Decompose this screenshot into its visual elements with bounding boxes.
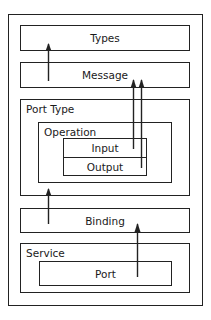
port-label: Port xyxy=(40,269,171,280)
message-label: Message xyxy=(21,70,189,81)
message-block: Message xyxy=(20,62,190,88)
port-type-label: Port Type xyxy=(26,104,74,115)
output-block: Output xyxy=(63,157,147,177)
binding-label: Binding xyxy=(21,216,189,227)
binding-block: Binding xyxy=(20,208,190,233)
port-block: Port xyxy=(39,261,172,286)
operation-label: Operation xyxy=(44,127,96,138)
input-block: Input xyxy=(63,138,147,158)
types-block: Types xyxy=(20,25,190,51)
output-label: Output xyxy=(64,162,146,173)
service-label: Service xyxy=(26,248,65,259)
input-label: Input xyxy=(64,143,146,154)
types-label: Types xyxy=(21,33,189,44)
